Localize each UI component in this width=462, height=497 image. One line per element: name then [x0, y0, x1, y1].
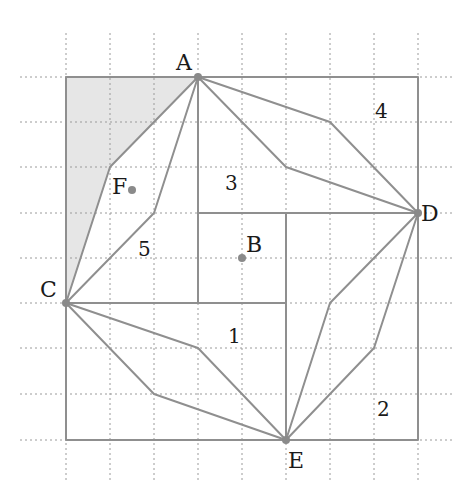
path-C-E-outer	[66, 303, 286, 440]
region-label-1: 1	[228, 324, 241, 348]
point-F	[128, 186, 136, 194]
label-B: B	[246, 232, 262, 257]
region-label-5: 5	[138, 237, 151, 261]
label-E: E	[288, 448, 304, 473]
label-D: D	[421, 201, 439, 226]
geometry-diagram: A B C D E F 1 2 3 4 5	[0, 0, 462, 497]
region-label-2: 2	[377, 397, 390, 421]
region-label-3: 3	[225, 171, 238, 195]
label-F: F	[112, 174, 127, 199]
point-C	[62, 299, 70, 307]
point-B	[238, 254, 246, 262]
label-C: C	[40, 277, 57, 302]
point-E	[282, 436, 290, 444]
point-A	[194, 73, 202, 81]
path-C-E-inner	[66, 303, 286, 440]
region-label-4: 4	[375, 99, 388, 123]
label-A: A	[175, 50, 193, 75]
path-E-D-outer	[286, 213, 418, 440]
path-E-D-inner	[286, 213, 418, 440]
